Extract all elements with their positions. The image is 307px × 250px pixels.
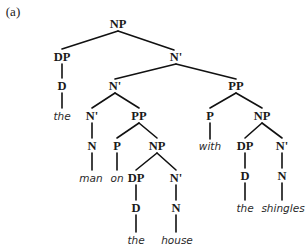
syntax-tree-diagram: (a) NPDPN'DN'PPtheN'PPPNPNPNPwithDPN'man… (0, 0, 307, 250)
tree-branch-line (262, 123, 282, 138)
terminal-word-house: house (161, 235, 193, 246)
node-np3: NP (254, 110, 271, 123)
tree-branch-line (62, 31, 118, 49)
tree-branch-line (115, 64, 176, 79)
node-dp1: DP (54, 51, 71, 64)
node-p-on: P (113, 140, 121, 153)
node-n1: N (87, 140, 96, 153)
tree-branch-line (210, 93, 236, 108)
node-pp1: PP (228, 80, 243, 93)
terminal-word-shingles: shingles (261, 203, 304, 214)
tree-branch-line (236, 93, 262, 108)
figure-caption: (a) (6, 5, 20, 18)
tree-branch-line (245, 123, 262, 138)
node-nbar5: N' (276, 140, 289, 153)
tree-branch-line (139, 123, 157, 138)
tree-branch-line (176, 64, 236, 79)
node-p-with: P (206, 110, 214, 123)
node-nbar1: N' (170, 51, 183, 64)
node-d1: D (57, 80, 66, 93)
tree-branch-line (115, 93, 139, 108)
node-pp2: PP (131, 110, 146, 123)
terminal-word-the3: the (236, 203, 253, 214)
terminal-word-the1: the (53, 111, 70, 122)
terminal-word-the2: the (127, 235, 144, 246)
node-nbar4: N' (170, 172, 183, 185)
node-np-root: NP (110, 18, 127, 31)
terminal-word-with: with (199, 141, 221, 152)
node-n2: N (171, 202, 180, 215)
tree-branch-line (136, 153, 157, 170)
node-dp2: DP (128, 172, 145, 185)
tree-branch-line (117, 123, 139, 138)
node-dp3: DP (237, 140, 254, 153)
tree-branch-line (118, 31, 174, 50)
node-np2: NP (149, 140, 166, 153)
terminal-word-on: on (110, 173, 123, 184)
node-d3: D (240, 170, 249, 183)
tree-branch-line (157, 153, 176, 170)
terminal-word-man: man (79, 173, 102, 184)
node-n3: N (277, 170, 286, 183)
node-d2: D (131, 202, 140, 215)
tree-branch-line (92, 93, 115, 108)
node-nbar2: N' (109, 80, 122, 93)
node-nbar3: N' (86, 110, 99, 123)
